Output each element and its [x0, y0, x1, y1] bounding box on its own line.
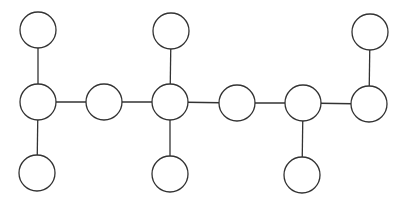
tree-diagram — [0, 0, 401, 206]
node-K — [352, 14, 388, 50]
node-D — [86, 84, 122, 120]
node-E — [153, 13, 189, 49]
node-A — [20, 12, 56, 48]
node-J — [284, 157, 320, 193]
node-F — [152, 84, 188, 120]
node-G — [152, 156, 188, 192]
node-H — [219, 85, 255, 121]
node-I — [285, 85, 321, 121]
node-C — [19, 155, 55, 191]
node-B — [20, 84, 56, 120]
node-L — [351, 86, 387, 122]
